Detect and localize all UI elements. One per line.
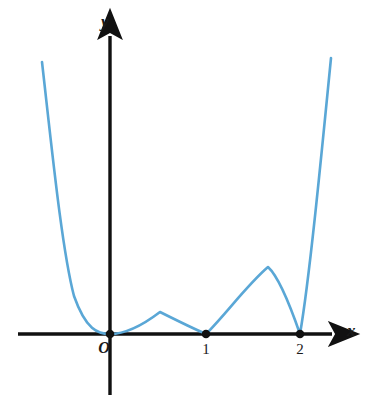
x-axis-label: x — [347, 322, 356, 339]
tick-label-one: 1 — [199, 342, 213, 357]
point-one — [202, 330, 211, 339]
tick-label-origin: O — [97, 340, 111, 356]
function-plot-figure: y x O 1 2 — [0, 0, 375, 403]
function-curve — [42, 58, 331, 334]
y-axis-label: y — [101, 13, 109, 30]
plot-canvas — [0, 0, 375, 403]
point-origin — [106, 330, 115, 339]
tick-label-two: 2 — [293, 342, 307, 357]
point-two — [296, 330, 305, 339]
